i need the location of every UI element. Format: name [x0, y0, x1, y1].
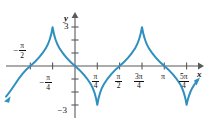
x-tick-label-3pi-over-4: 3π 4	[134, 72, 144, 90]
fraction-pi-over-4: π 4	[45, 74, 52, 91]
fraction-pi-over-4: π 4	[92, 73, 99, 90]
fraction-denominator: 2	[116, 82, 122, 90]
y-tick-label-3: 3	[64, 22, 69, 31]
fraction-numerator: π	[45, 74, 51, 82]
x-axis-label: x	[197, 70, 202, 79]
fraction-numerator: π	[116, 73, 122, 81]
x-tick-label-neg-pi-over-4: − π 4	[39, 72, 52, 91]
fraction-pi-over-2: π 2	[19, 42, 26, 59]
fraction-denominator: 4	[45, 84, 51, 92]
x-tick-label-pi: π	[161, 73, 165, 81]
x-tick-label-pi-over-2: π 2	[115, 72, 122, 90]
minus-sign: −	[13, 46, 18, 55]
minus-sign: −	[39, 78, 44, 87]
fraction-3pi-over-4: 3π 4	[134, 73, 144, 90]
graph-canvas	[0, 0, 208, 126]
x-tick-label-5pi-over-4: 5π 4	[179, 72, 189, 90]
minus-sign: −	[57, 106, 62, 115]
fraction-numerator: 3π	[134, 73, 144, 81]
y-axis-arrow-icon	[72, 12, 79, 18]
fraction-denominator: 4	[93, 82, 99, 90]
x-tick-label-pi-over-4: π 4	[92, 72, 99, 90]
fraction-5pi-over-4: 5π 4	[179, 73, 189, 90]
fraction-numerator: π	[93, 73, 99, 81]
fraction-numerator: 5π	[179, 73, 189, 81]
fraction-denominator: 4	[136, 82, 142, 90]
y-tick-label-neg3-value: 3	[63, 106, 68, 115]
fraction-denominator: 2	[19, 52, 25, 60]
fraction-denominator: 4	[181, 82, 187, 90]
fraction-numerator: π	[19, 42, 25, 50]
graph-figure: y x 3 −3 − π 2 − π 4 π	[0, 0, 208, 126]
fraction-pi-over-2: π 2	[115, 73, 122, 90]
x-tick-label-neg-pi-over-2: − π 2	[13, 40, 26, 59]
y-tick-label-neg3: −3	[57, 100, 67, 116]
curve-left-arrow-icon	[4, 96, 11, 103]
